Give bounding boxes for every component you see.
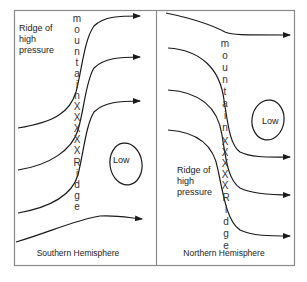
mountain-ridge-label: m o u n t a i n X X X X X R i d g e <box>73 13 81 212</box>
hemisphere-ridge-diagram: Low Ridge of high pressure m o u n t a i… <box>0 0 307 282</box>
mountain-letter: o <box>74 24 80 35</box>
southern-hemisphere-panel: Low Ridge of high pressure m o u n t a i… <box>16 13 145 258</box>
mountain-letter: X <box>74 112 81 123</box>
mountain-letter: n <box>222 74 228 85</box>
mountain-letter: d <box>223 216 229 227</box>
mountain-letter: X <box>74 101 81 112</box>
mountain-letter: a <box>222 98 228 109</box>
low-label: Low <box>113 155 130 165</box>
mountain-letter: X <box>222 180 229 191</box>
mountain-letter: n <box>222 122 228 133</box>
mountain-letter: X <box>222 147 229 158</box>
mountain-letter: R <box>73 157 80 168</box>
streamline-4 <box>16 216 142 242</box>
mountain-letter: u <box>74 35 80 46</box>
southern-hemisphere-caption: Southern Hemisphere <box>37 248 120 258</box>
mountain-letter: u <box>222 62 228 73</box>
diagram-frame <box>15 11 295 266</box>
mountain-letter: X <box>222 158 229 169</box>
low-label: Low <box>262 116 279 126</box>
ridge-label-line-3: pressure <box>19 45 54 55</box>
mountain-letter: i <box>76 79 78 90</box>
mountain-letter: e <box>74 201 80 212</box>
mountain-letter: t <box>76 57 79 68</box>
mountain-letter: o <box>222 50 228 61</box>
ridge-label-line-3: pressure <box>177 187 212 197</box>
streamline-1 <box>166 13 290 35</box>
mountain-letter: R <box>222 192 229 203</box>
mountain-letter: m <box>73 13 81 24</box>
northern-hemisphere-panel: Low Ridge of high pressure m o u n t a i… <box>166 13 290 258</box>
mountain-letter: X <box>74 134 81 145</box>
mountain-letter: n <box>74 90 80 101</box>
mountain-letter: i <box>225 204 227 215</box>
streamline-2 <box>168 48 290 157</box>
mountain-letter: X <box>74 145 81 156</box>
mountain-letter: X <box>222 169 229 180</box>
mountain-letter: g <box>223 228 229 239</box>
ridge-label-line-2: high <box>177 176 194 186</box>
mountain-letter: i <box>76 168 78 179</box>
ridge-label-line-2: high <box>19 34 36 44</box>
mountain-letter: X <box>74 123 81 134</box>
mountain-letter: g <box>74 190 80 201</box>
mountain-letter: n <box>74 46 80 57</box>
ridge-label-line-1: Ridge of <box>177 165 211 175</box>
northern-hemisphere-caption: Northern Hemisphere <box>183 248 265 258</box>
mountain-letter: i <box>224 110 226 121</box>
mountain-letter: d <box>74 179 80 190</box>
mountain-letter: X <box>222 136 229 147</box>
mountain-letter: a <box>74 68 80 79</box>
mountain-letter: m <box>221 38 229 49</box>
mountain-letter: t <box>224 86 227 97</box>
ridge-label-line-1: Ridge of <box>19 23 53 33</box>
mountain-ridge-label: m o u n t a i n X X X X X R i d g e <box>221 38 230 251</box>
